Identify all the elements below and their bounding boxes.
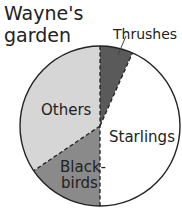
pie-chart: Thrushes Starlings Others Black- birds: [0, 0, 182, 208]
label-starlings: Starlings: [109, 128, 175, 146]
label-thrushes: Thrushes: [112, 26, 177, 42]
label-blackbirds-line2: birds: [61, 174, 98, 192]
label-others: Others: [41, 101, 92, 119]
